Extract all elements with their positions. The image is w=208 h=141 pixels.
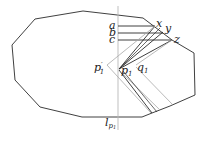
geometry-diagram: a b c x y z p′1 p1 q1 lp1 [0,0,208,141]
label-z: z [173,33,180,46]
label-p1: p1 [121,64,133,78]
label-y: y [164,22,172,35]
label-x: x [156,17,163,30]
label-l-p1: lp1 [105,116,116,130]
ray-p1-down-2 [121,72,160,110]
label-c: c [109,33,115,46]
label-q1: q1 [137,61,149,75]
label-p1-prime: p′1 [94,61,104,76]
